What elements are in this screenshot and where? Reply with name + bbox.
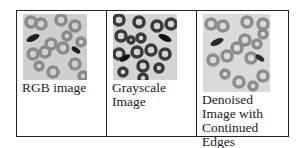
table-cell-rgb: RGB image — [17, 11, 107, 136]
denoised-image-caption: Denoised Image with Continued Edges — [202, 93, 288, 148]
table-cell-grayscale: Grayscale Image — [107, 11, 197, 136]
rgb-blood-cell-image — [23, 14, 87, 80]
grayscale-blood-cell-image — [113, 14, 177, 80]
denoised-blood-cell-image — [203, 14, 270, 92]
grayscale-image-caption: Grayscale Image — [112, 81, 198, 109]
image-comparison-table: RGB image Grayscale Image — [16, 10, 289, 137]
rgb-image-caption: RGB image — [22, 81, 108, 95]
table-cell-denoised: Denoised Image with Continued Edges — [197, 11, 288, 136]
